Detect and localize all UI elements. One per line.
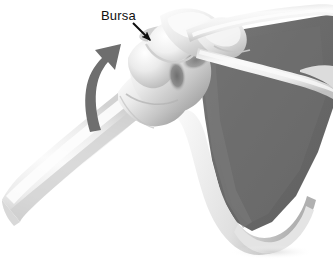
scan-smudge xyxy=(230,245,314,259)
bursa-label: Bursa xyxy=(101,9,136,23)
anatomy-figure: Bursa xyxy=(0,0,333,259)
anatomy-illustration xyxy=(0,0,333,259)
